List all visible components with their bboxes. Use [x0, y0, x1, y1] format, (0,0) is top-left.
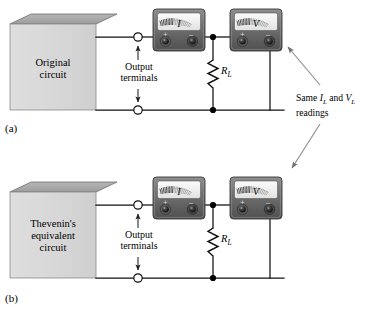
panel-b-resistor-label-sub: L [227, 238, 231, 247]
annotation-line2: readings [296, 107, 378, 119]
panel-b-voltmeter [230, 177, 282, 219]
panel-b-box-label: Thevenin's equivalent circuit [10, 218, 96, 253]
panel-a-box-label-line2: circuit [10, 69, 96, 81]
panel-b-resistor [208, 228, 218, 256]
panel-a-tag: (a) [5, 122, 35, 134]
panel-a-node-bottom [210, 107, 216, 113]
annotation-text: Same IL and VL readings [296, 92, 378, 119]
annotation-same-prefix: Same [296, 92, 320, 103]
panel-a-resistor-label: RL [221, 65, 245, 79]
panel-b-ammeter-minus-sign: − [189, 200, 194, 208]
panel-a-voltmeter-plus-sign: + [240, 31, 245, 39]
panel-b-ammeter-face-label: I [153, 186, 205, 197]
panel-a-output-terminals-line1: Output [108, 61, 170, 72]
panel-a-output-terminals-line2: terminals [108, 72, 170, 83]
panel-b-output-terminals-line2: terminals [108, 240, 170, 251]
panel-b-voltmeter-minus-sign: − [266, 200, 271, 208]
panel-b-tag: (b) [5, 292, 35, 304]
annotation-line1: Same IL and VL [296, 92, 378, 107]
panel-b-ammeter-plus-sign: + [163, 199, 168, 207]
annotation-leader-up [288, 47, 320, 85]
panel-b-node-bottom [210, 275, 216, 281]
panel-a-ammeter-face-label: I [153, 18, 205, 29]
panel-b-ammeter [153, 177, 205, 219]
annotation-leader-down [292, 124, 320, 168]
panel-a-box-label-line1: Original [10, 57, 96, 69]
panel-a-box-label: Original circuit [10, 57, 96, 81]
panel-a-node-top [210, 34, 216, 40]
panel-b-terminal-top [134, 201, 142, 209]
panel-b-voltmeter-face-label: V [230, 186, 282, 197]
panel-b-voltmeter-plus-sign: + [240, 199, 245, 207]
panel-a-terminal-top [134, 33, 142, 41]
panel-b-output-terminals-label: Output terminals [108, 229, 170, 251]
panel-a-voltmeter [230, 9, 282, 51]
panel-b-box-label-line2: equivalent [10, 230, 96, 242]
panel-a-output-terminals-label: Output terminals [108, 61, 170, 83]
panel-b-box-label-line3: circuit [10, 242, 96, 254]
panel-a-ammeter-plus-sign: + [163, 31, 168, 39]
panel-a-ammeter [153, 9, 205, 51]
circuit-diagram-svg [0, 0, 379, 322]
panel-b-output-terminals-line1: Output [108, 229, 170, 240]
panel-b-node-top [210, 202, 216, 208]
panel-a-terminal-bottom [134, 106, 142, 114]
panel-b-box-label-line1: Thevenin's [10, 218, 96, 230]
panel-b-terminal-bottom [134, 274, 142, 282]
panel-a-ammeter-minus-sign: − [189, 32, 194, 40]
panel-a-resistor-label-sub: L [227, 70, 231, 79]
panel-b-resistor-label: RL [221, 233, 245, 247]
panel-a-voltmeter-face-label: V [230, 18, 282, 29]
figure-canvas: Original circuit Output terminals RL I V… [0, 0, 379, 322]
annotation-voltage-sub: L [351, 98, 355, 106]
annotation-conjunction: and [327, 92, 346, 103]
panel-a-resistor [208, 60, 218, 88]
panel-a-voltmeter-minus-sign: − [266, 32, 271, 40]
